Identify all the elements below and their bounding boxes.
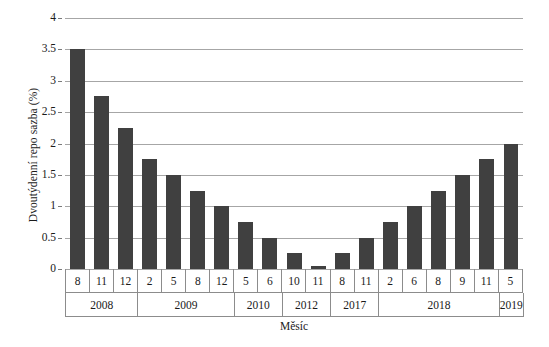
month-label-cell: 8 — [65, 269, 89, 293]
year-label-cell: 2012 — [282, 293, 330, 317]
y-axis-tick-mark — [58, 49, 62, 50]
y-axis-tick-mark — [58, 18, 62, 19]
y-axis-tick-label: 3 — [50, 75, 56, 87]
bar[interactable] — [407, 206, 422, 269]
y-axis-tick-mark — [58, 269, 62, 270]
y-axis-tick-mark — [58, 238, 62, 239]
bar-slot — [378, 18, 402, 269]
bar-slot — [403, 18, 427, 269]
bar[interactable] — [431, 191, 446, 269]
bar-slot — [89, 18, 113, 269]
month-label-cell: 9 — [450, 269, 474, 293]
month-label-cell: 5 — [161, 269, 185, 293]
month-label-cell: 8 — [185, 269, 209, 293]
y-axis-title: Dvoutýdenní repo sazba (%) — [22, 10, 44, 300]
bar[interactable] — [94, 96, 109, 269]
plot-area — [65, 18, 523, 269]
bar[interactable] — [504, 144, 519, 270]
month-label-cell: 5 — [498, 269, 523, 293]
bar-slot — [475, 18, 499, 269]
x-axis-title: Měsíc — [65, 320, 523, 332]
month-label-cell: 6 — [402, 269, 426, 293]
bar[interactable] — [190, 191, 205, 269]
bar-slot — [306, 18, 330, 269]
y-axis-tick-label: 1 — [50, 200, 56, 212]
month-label-cell: 11 — [89, 269, 113, 293]
month-label-cell: 5 — [233, 269, 257, 293]
bar[interactable] — [262, 238, 277, 269]
y-axis-tick-label: 2 — [50, 138, 56, 150]
month-label-cell: 12 — [113, 269, 137, 293]
year-label-cell: 2010 — [234, 293, 282, 317]
bar-slot — [354, 18, 378, 269]
y-axis-tick-mark — [58, 112, 62, 113]
bar-slot — [499, 18, 523, 269]
month-label-cell: 11 — [354, 269, 378, 293]
bar[interactable] — [287, 253, 302, 269]
y-axis-tick-mark — [58, 81, 62, 82]
y-axis-tick-mark — [58, 206, 62, 207]
bar-chart: Dvoutýdenní repo sazba (%) 00.511.522.53… — [0, 0, 549, 347]
category-axis-table: 81112258125610118112689115 2008200920102… — [65, 269, 523, 317]
month-label-cell: 2 — [378, 269, 402, 293]
bar[interactable] — [359, 238, 374, 269]
bar-slot — [65, 18, 89, 269]
bar[interactable] — [166, 175, 181, 269]
bar-slot — [210, 18, 234, 269]
year-label-row: 2008200920102012201720182019 — [65, 293, 523, 317]
month-label-cell: 8 — [330, 269, 354, 293]
bar[interactable] — [479, 159, 494, 269]
year-label-cell: 2008 — [65, 293, 137, 317]
y-axis-tick-mark — [58, 144, 62, 145]
bar-slot — [330, 18, 354, 269]
bar[interactable] — [383, 222, 398, 269]
month-label-cell: 2 — [137, 269, 161, 293]
bar-slot — [427, 18, 451, 269]
bars-layer — [65, 18, 523, 269]
month-label-cell: 6 — [257, 269, 281, 293]
year-label-cell: 2018 — [378, 293, 499, 317]
bar-slot — [186, 18, 210, 269]
month-label-cell: 11 — [474, 269, 498, 293]
bar-slot — [282, 18, 306, 269]
y-axis-tick-label: 0 — [50, 263, 56, 275]
bar[interactable] — [118, 128, 133, 269]
y-axis-tick-label: 4 — [50, 12, 56, 24]
bar[interactable] — [142, 159, 157, 269]
bar-slot — [137, 18, 161, 269]
bar-slot — [258, 18, 282, 269]
bar[interactable] — [455, 175, 470, 269]
bar[interactable] — [335, 253, 350, 269]
bar[interactable] — [214, 206, 229, 269]
bar-slot — [113, 18, 137, 269]
month-label-cell: 8 — [426, 269, 450, 293]
bar-slot — [161, 18, 185, 269]
bar[interactable] — [238, 222, 253, 269]
year-label-cell: 2019 — [499, 293, 524, 317]
year-label-cell: 2009 — [137, 293, 233, 317]
bar[interactable] — [311, 266, 326, 269]
month-label-cell: 11 — [305, 269, 329, 293]
month-label-cell: 12 — [209, 269, 233, 293]
bar-slot — [234, 18, 258, 269]
month-label-cell: 10 — [281, 269, 305, 293]
month-label-row: 81112258125610118112689115 — [65, 269, 523, 293]
bar-slot — [451, 18, 475, 269]
bar[interactable] — [70, 49, 85, 269]
y-axis-tick-mark — [58, 175, 62, 176]
year-label-cell: 2017 — [330, 293, 378, 317]
